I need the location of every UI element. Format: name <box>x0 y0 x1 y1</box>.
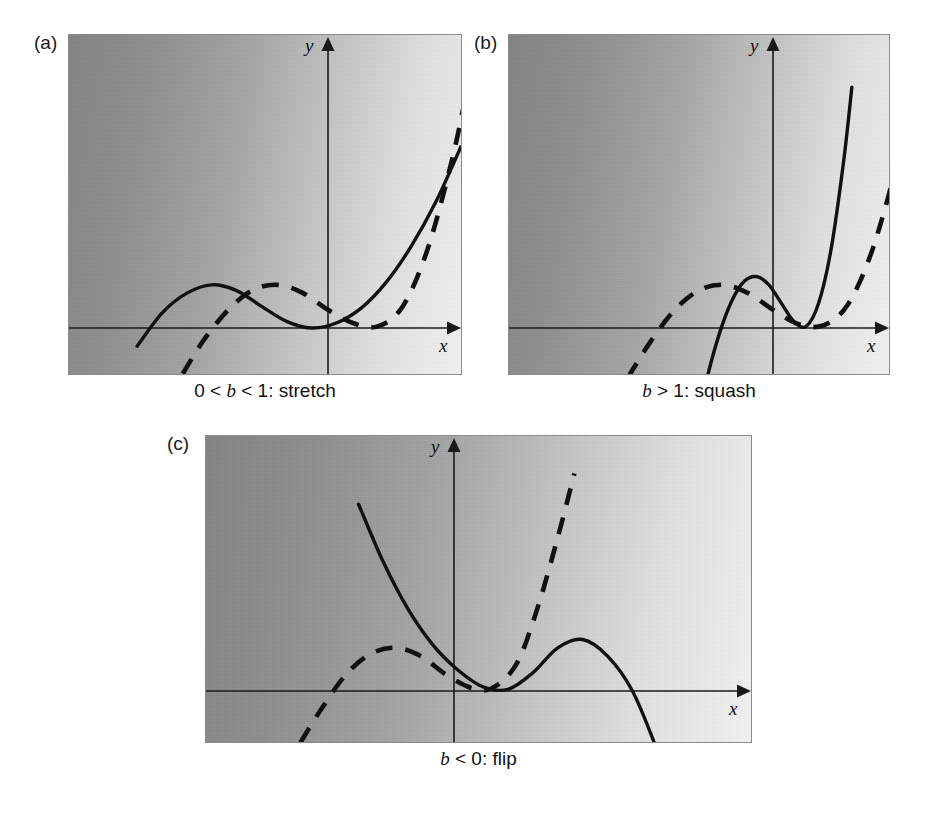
caption-text: b > 1: squash <box>642 380 756 401</box>
panel-a-plot-area <box>68 34 462 375</box>
curve-solid-transformed <box>137 147 461 346</box>
curve-dashed-original <box>183 79 462 374</box>
curve-solid-transformed <box>359 504 670 743</box>
panel-a-x-axis-label: x <box>439 335 447 357</box>
panel-a-curves <box>69 35 462 375</box>
curve-dashed-original <box>628 91 890 375</box>
panel-c-curves <box>206 436 752 743</box>
panel-a-caption: 0 < b < 1: stretch <box>68 380 462 402</box>
curve-dashed-original <box>300 474 574 743</box>
panel-c-x-axis-label: x <box>729 698 737 720</box>
figure-horizontal-scaling: (a) y x 0 < b < 1: stretch (b) y x b > 1… <box>0 0 928 818</box>
caption-variable: b <box>642 380 652 401</box>
caption-text: 0 < b < 1: stretch <box>194 380 336 401</box>
panel-b-plot-area <box>508 34 890 375</box>
panel-a-label: (a) <box>34 32 57 54</box>
panel-b-x-axis-label: x <box>867 335 875 357</box>
panel-c-label: (c) <box>167 433 189 455</box>
panel-b-y-axis-label: y <box>750 35 758 57</box>
panel-c-y-axis-label: y <box>431 436 439 458</box>
caption-variable: b <box>440 748 450 769</box>
panel-b-curves <box>509 35 890 375</box>
panel-c-caption: b < 0: flip <box>205 748 752 770</box>
panel-b-caption: b > 1: squash <box>508 380 890 402</box>
caption-variable: b <box>226 380 236 401</box>
caption-text: b < 0: flip <box>440 748 517 769</box>
panel-b-label: (b) <box>474 32 497 54</box>
panel-a-y-axis-label: y <box>305 35 313 57</box>
panel-c-plot-area <box>205 435 752 743</box>
